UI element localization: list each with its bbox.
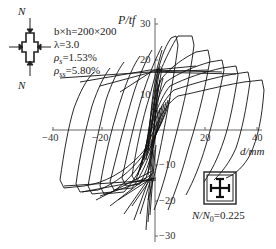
- cross-section-icon: [203, 171, 237, 205]
- y-tick-label: 10: [140, 90, 151, 101]
- axial-ratio-prefix: N/N: [192, 209, 210, 221]
- x-tick-label: 40: [252, 133, 263, 144]
- x-tick-label: 0: [148, 133, 153, 144]
- y-tick-label: 30: [140, 19, 151, 30]
- y-tick-label: 20: [140, 55, 151, 66]
- specimen-loading-icon: [0, 0, 60, 95]
- rho-s-value: =1.53%: [62, 51, 97, 63]
- x-axis-label: d/mm: [240, 146, 264, 157]
- rho-ss-value: =5.80%: [66, 64, 101, 76]
- axial-ratio-value: =0.225: [214, 209, 245, 221]
- section-size-label: b×h=200×200: [54, 26, 117, 37]
- rho-ss-label: ρss=5.80%: [54, 65, 100, 79]
- y-axis-label: P/tf: [118, 14, 135, 26]
- shear-span-ratio-label: λ=3.0: [54, 39, 79, 50]
- x-tick-label: −40: [42, 133, 58, 144]
- y-tick-label: −20: [159, 196, 175, 207]
- y-tick-label: −30: [159, 231, 175, 242]
- bottom-axial-load-label: N: [18, 80, 25, 91]
- y-tick-label: −10: [159, 160, 175, 171]
- top-axial-load-label: N: [18, 6, 25, 17]
- axial-load-ratio-label: N/N0=0.225: [192, 210, 245, 224]
- x-tick-label: −20: [92, 133, 108, 144]
- x-tick-label: 20: [200, 133, 211, 144]
